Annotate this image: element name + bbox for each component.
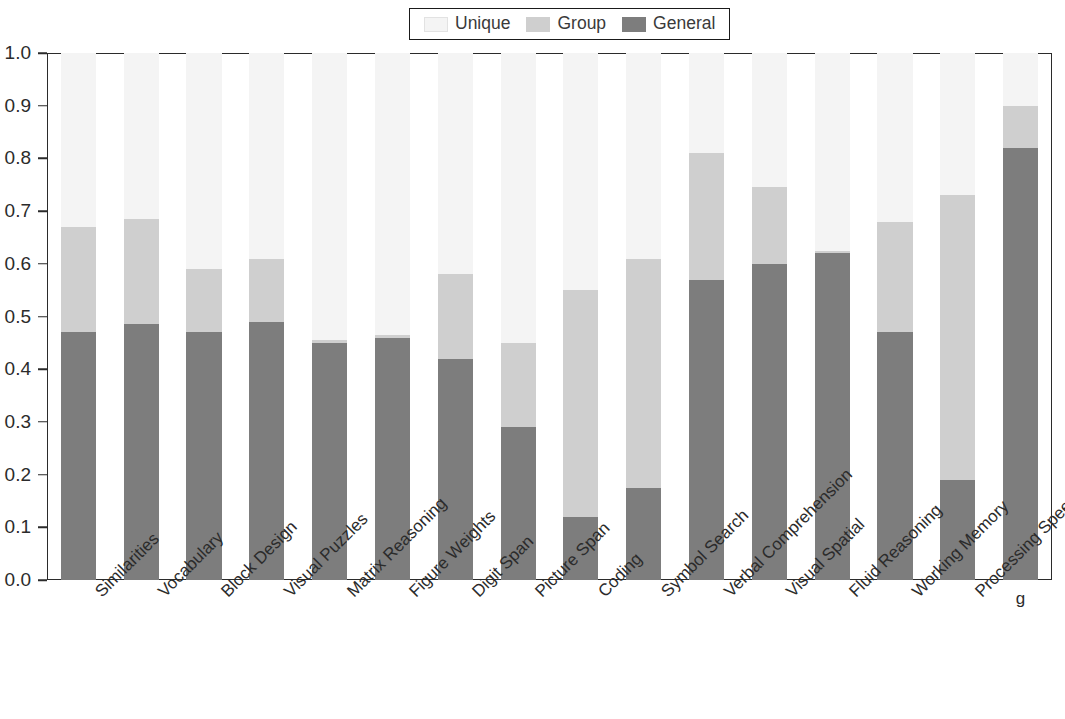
legend-entry-general[interactable]: General xyxy=(622,15,715,33)
bar-g[interactable] xyxy=(1003,53,1038,580)
y-tick-label: 0.0 xyxy=(5,569,31,591)
y-tick-mark xyxy=(38,579,47,581)
y-tick-mark xyxy=(38,368,47,370)
legend-entry-unique[interactable]: Unique xyxy=(424,15,510,33)
x-axis-labels: SimilaritiesVocabularyBlock DesignVisual… xyxy=(47,580,1052,719)
legend-label-unique: Unique xyxy=(455,15,510,33)
bar-segment-unique xyxy=(312,53,347,340)
y-tick-label: 0.9 xyxy=(5,95,31,117)
y-axis: 0.00.10.20.30.40.50.60.70.80.91.0 xyxy=(0,0,47,719)
bar-segment-group xyxy=(501,343,536,427)
y-tick-label: 0.6 xyxy=(5,253,31,275)
y-tick-label: 0.3 xyxy=(5,411,31,433)
x-tick-label: Figure Weights xyxy=(406,588,418,600)
x-tick-label: g xyxy=(1016,590,1025,607)
x-tick-label: Similarities xyxy=(92,588,104,600)
x-tick-label: Block Design xyxy=(218,588,230,600)
y-tick-label: 1.0 xyxy=(5,42,31,64)
x-tick-label: Picture Span xyxy=(532,588,544,600)
x-tick-label: Symbol Search xyxy=(658,588,670,600)
bar-segment-group xyxy=(689,153,724,279)
y-tick-label: 0.5 xyxy=(5,306,31,328)
bar-symbol-search[interactable] xyxy=(626,53,661,580)
bar-segment-unique xyxy=(249,53,284,259)
y-tick-label: 0.1 xyxy=(5,516,31,538)
bar-segment-group xyxy=(752,187,787,263)
bar-segment-unique xyxy=(124,53,159,219)
legend-swatch-group xyxy=(526,17,550,32)
legend-swatch-general xyxy=(622,17,646,32)
bar-segment-general xyxy=(1003,148,1038,580)
bar-segment-unique xyxy=(375,53,410,335)
x-tick-label: Vocabulary xyxy=(155,588,167,600)
bar-segment-group xyxy=(1003,106,1038,148)
bar-vocabulary[interactable] xyxy=(124,53,159,580)
x-tick-label: Verbal Comprehension xyxy=(721,588,733,600)
bar-segment-group xyxy=(61,227,96,332)
y-tick-mark xyxy=(38,105,47,107)
bar-segment-group xyxy=(438,274,473,358)
x-tick-label: Processing Speed xyxy=(972,588,984,600)
bar-processing-speed[interactable] xyxy=(940,53,975,580)
y-tick-mark xyxy=(38,158,47,160)
bar-segment-group xyxy=(877,222,912,333)
bar-verbal-comprehension[interactable] xyxy=(689,53,724,580)
legend-entry-group[interactable]: Group xyxy=(526,15,606,33)
bar-visual-spatial[interactable] xyxy=(752,53,787,580)
bar-segment-unique xyxy=(752,53,787,187)
bar-segment-group xyxy=(124,219,159,324)
y-tick-mark xyxy=(38,52,47,54)
bar-visual-puzzles[interactable] xyxy=(249,53,284,580)
bar-segment-general xyxy=(61,332,96,580)
bar-segment-group xyxy=(563,290,598,517)
bar-picture-span[interactable] xyxy=(501,53,536,580)
bar-segment-unique xyxy=(563,53,598,290)
bar-segment-group xyxy=(940,195,975,480)
y-tick-label: 0.7 xyxy=(5,200,31,222)
bar-block-design[interactable] xyxy=(186,53,221,580)
y-tick-label: 0.2 xyxy=(5,464,31,486)
bar-coding[interactable] xyxy=(563,53,598,580)
x-tick-label: Visual Puzzles xyxy=(281,588,293,600)
y-tick-mark xyxy=(38,474,47,476)
y-tick-mark xyxy=(38,421,47,423)
bar-segment-group xyxy=(186,269,221,332)
bar-segment-unique xyxy=(877,53,912,222)
bar-segment-unique xyxy=(626,53,661,259)
bar-segment-unique xyxy=(61,53,96,227)
y-tick-mark xyxy=(38,263,47,265)
x-tick-label: Matrix Reasoning xyxy=(344,588,356,600)
bar-segment-group xyxy=(249,259,284,322)
bar-segment-group xyxy=(626,259,661,488)
legend-swatch-unique xyxy=(424,17,448,32)
x-tick-label: Visual Spatial xyxy=(783,588,795,600)
bar-segment-unique xyxy=(186,53,221,269)
bar-segment-unique xyxy=(1003,53,1038,106)
bar-working-memory[interactable] xyxy=(877,53,912,580)
bar-segment-unique xyxy=(815,53,850,251)
bars-layer xyxy=(47,53,1052,580)
bar-segment-unique xyxy=(689,53,724,153)
y-tick-label: 0.8 xyxy=(5,147,31,169)
chart-legend: Unique Group General xyxy=(409,8,730,40)
x-tick-label: Working Memory xyxy=(909,588,921,600)
bar-segment-unique xyxy=(501,53,536,343)
bar-segment-unique xyxy=(438,53,473,274)
y-tick-mark xyxy=(38,316,47,318)
chart-page: Unique Group General 0.00.10.20.30.40.50… xyxy=(0,0,1065,719)
y-tick-mark xyxy=(38,527,47,529)
y-tick-label: 0.4 xyxy=(5,358,31,380)
x-tick-label: Coding xyxy=(595,588,607,600)
x-tick-label: Digit Span xyxy=(469,588,481,600)
bar-similarities[interactable] xyxy=(61,53,96,580)
y-tick-mark xyxy=(38,210,47,212)
legend-label-group: Group xyxy=(557,15,606,33)
legend-label-general: General xyxy=(653,15,715,33)
bar-segment-unique xyxy=(940,53,975,195)
x-tick-label: Fluid Reasoning xyxy=(846,588,858,600)
bar-figure-weights[interactable] xyxy=(375,53,410,580)
bar-matrix-reasoning[interactable] xyxy=(312,53,347,580)
